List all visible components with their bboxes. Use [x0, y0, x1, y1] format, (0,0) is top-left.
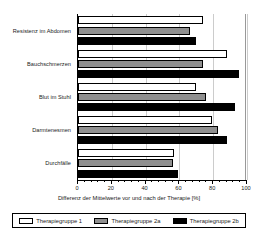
x-axis-minor-tick — [131, 180, 132, 182]
bar — [78, 103, 235, 111]
x-axis-major-tick — [145, 180, 146, 184]
bar — [78, 60, 203, 68]
x-axis-minor-tick — [97, 180, 98, 182]
legend-entry: Therapiegruppe 2a — [94, 218, 160, 224]
x-axis-minor-tick — [226, 180, 227, 182]
x-axis-minor-tick — [151, 180, 152, 182]
chart-legend: Therapiegruppe 1Therapiegruppe 2aTherapi… — [12, 213, 246, 228]
legend-entry: Therapiegruppe 1 — [19, 218, 82, 224]
bar-row — [78, 116, 245, 124]
white-swatch — [19, 218, 33, 224]
bar-row — [78, 93, 245, 101]
bar-group — [78, 80, 245, 113]
bar-row — [78, 103, 245, 111]
bar — [78, 37, 196, 45]
x-axis-minor-tick — [158, 180, 159, 182]
x-axis-minor-tick — [91, 180, 92, 182]
bar-row — [78, 60, 245, 68]
y-axis-tick-label: Blut im Stuhl — [39, 80, 71, 113]
bar-row — [78, 126, 245, 134]
bar-row — [78, 16, 245, 24]
bar-row — [78, 136, 245, 144]
bar — [78, 50, 227, 58]
x-axis-minor-tick — [239, 180, 240, 182]
x-axis-minor-tick — [124, 180, 125, 182]
x-axis-tick-label: 100 — [241, 185, 250, 191]
x-axis-title: Differenz der Mittelwerte vor und nach d… — [0, 195, 258, 201]
legend-label: Therapiegruppe 2a — [111, 218, 160, 224]
x-axis-minor-tick — [185, 180, 186, 182]
bar — [78, 136, 227, 144]
x-axis-minor-tick — [199, 180, 200, 182]
bar-group — [78, 47, 245, 80]
bar-row — [78, 149, 245, 157]
bar — [78, 27, 190, 35]
x-axis-major-tick — [246, 180, 247, 184]
bar — [78, 70, 239, 78]
x-axis-line — [77, 180, 247, 181]
y-axis-tick-label: Durchfälle — [45, 147, 71, 180]
y-axis-labels: Resistenz im AbdomenBauchschmerzenBlut i… — [0, 14, 74, 180]
x-axis-minor-tick — [138, 180, 139, 182]
legend-label: Therapiegruppe 2b — [190, 218, 239, 224]
bar — [78, 126, 218, 134]
x-axis-minor-tick — [205, 180, 206, 182]
x-axis-major-tick — [77, 180, 78, 184]
x-axis-minor-tick — [192, 180, 193, 182]
bar-row — [78, 50, 245, 58]
x-axis-minor-tick — [118, 180, 119, 182]
legend-entry: Therapiegruppe 2b — [173, 218, 239, 224]
x-axis-major-tick — [212, 180, 213, 184]
x-axis-minor-tick — [232, 180, 233, 182]
legend-label: Therapiegruppe 1 — [36, 218, 82, 224]
bar — [78, 83, 196, 91]
x-axis-tick-label: 60 — [175, 185, 181, 191]
x-axis-minor-tick — [84, 180, 85, 182]
bar — [78, 149, 174, 157]
x-axis-tick-label: 80 — [209, 185, 215, 191]
bar — [78, 116, 212, 124]
bar-group — [78, 114, 245, 147]
x-axis-minor-tick — [219, 180, 220, 182]
bar-group — [78, 147, 245, 180]
bar-row — [78, 70, 245, 78]
bar-row — [78, 159, 245, 167]
x-axis-minor-tick — [104, 180, 105, 182]
x-axis-major-tick — [178, 180, 179, 184]
bar-row — [78, 83, 245, 91]
bar — [78, 93, 206, 101]
black-swatch — [173, 218, 187, 224]
x-axis-tick-label: 0 — [75, 185, 78, 191]
x-axis-tick-label: 40 — [141, 185, 147, 191]
x-axis-minor-tick — [165, 180, 166, 182]
bar-row — [78, 170, 245, 178]
y-axis-tick-label: Bauchschmerzen — [27, 47, 71, 80]
x-axis-major-tick — [111, 180, 112, 184]
gray-swatch — [94, 218, 108, 224]
bar — [78, 170, 178, 178]
y-axis-tick-label: Darmtenesmen — [32, 114, 71, 147]
bar-row — [78, 27, 245, 35]
bar — [78, 16, 203, 24]
bar-row — [78, 37, 245, 45]
x-axis-tick-label: 20 — [108, 185, 114, 191]
bar — [78, 159, 173, 167]
bar-group — [78, 14, 245, 47]
y-axis-tick-label: Resistenz im Abdomen — [13, 14, 71, 47]
bar-chart-figure: Resistenz im AbdomenBauchschmerzenBlut i… — [0, 0, 258, 234]
x-axis-minor-tick — [172, 180, 173, 182]
gridline — [247, 14, 248, 180]
plot-area — [77, 14, 246, 180]
